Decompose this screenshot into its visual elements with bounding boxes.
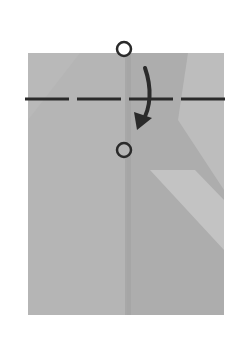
reference-point-bottom-icon [117, 143, 131, 157]
origami-diagram [0, 0, 246, 338]
reference-point-top-icon [117, 42, 131, 56]
center-crease [125, 53, 131, 315]
